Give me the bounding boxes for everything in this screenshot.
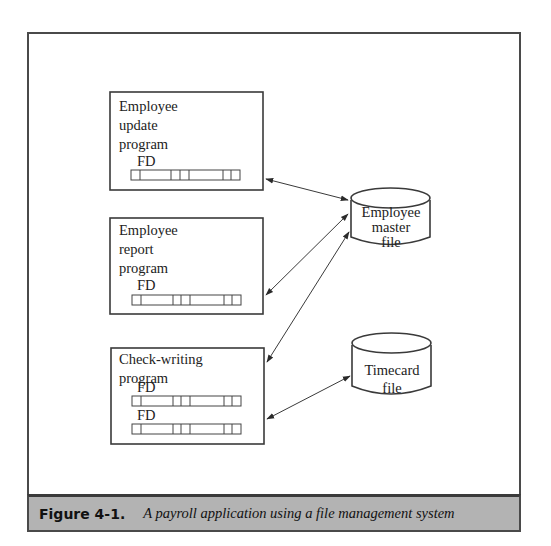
label-line: file (352, 379, 432, 397)
label-line: master (351, 220, 431, 235)
figure-number: Figure 4-1. (39, 506, 125, 522)
label-line: Employee (119, 221, 178, 240)
program-label-employee-update: Employee update program (119, 97, 178, 154)
label-line: Employee (119, 97, 178, 116)
fd-record-bar (132, 295, 241, 305)
fd-label: FD (137, 378, 156, 397)
fd-record-bar (132, 424, 241, 434)
label-line: update (119, 116, 178, 135)
figure-caption-bar: Figure 4-1. A payroll application using … (27, 494, 521, 532)
fd-label: FD (137, 276, 156, 295)
label-line: program (119, 369, 203, 388)
fd-label: FD (137, 406, 156, 425)
arrow-update-master (266, 179, 348, 200)
label-line: Timecard (352, 361, 432, 379)
fd-record-bar (132, 396, 241, 406)
file-label-timecard: Timecard file (352, 361, 432, 397)
label-line: file (351, 235, 431, 250)
program-label-employee-report: Employee report program (119, 221, 178, 278)
label-line: Check-writing (119, 350, 203, 369)
fd-record-bar (131, 170, 240, 180)
label-line: report (119, 240, 178, 259)
arrow-check-timecard (267, 376, 350, 419)
label-line: Employee (351, 205, 431, 220)
arrows (266, 179, 350, 419)
file-label-employee-master: Employee master file (351, 205, 431, 250)
arrow-check-master (267, 232, 349, 362)
program-label-check-writing: Check-writing program (119, 350, 203, 388)
figure-caption: A payroll application using a file manag… (143, 505, 454, 522)
diagram-canvas (0, 0, 551, 546)
fd-label: FD (137, 152, 156, 171)
arrow-report-master (266, 214, 348, 295)
